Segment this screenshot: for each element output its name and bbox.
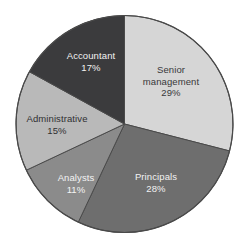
pie-chart-figure: Senior management 29% Principals 28% Ana… bbox=[0, 0, 247, 248]
pie-slice-group bbox=[16, 16, 233, 233]
pie-chart-graphic bbox=[0, 0, 247, 248]
